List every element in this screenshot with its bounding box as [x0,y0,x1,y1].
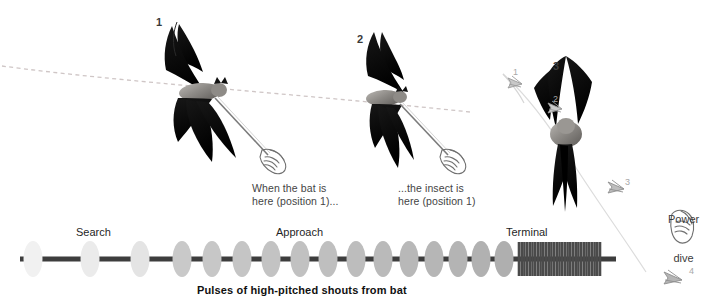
bat-1 [165,22,236,162]
power-dive-line1: Power [668,213,699,226]
power-dive-label: Power dive [668,187,699,291]
pulse-ellipses [24,241,514,277]
power-dive-line2: dive [668,252,699,265]
bat-label-1: 1 [156,16,162,28]
phase-label-search: Search [76,226,111,238]
insect-position-note: ...the insect is here (position 1) [398,182,476,207]
insect-marker-2: 2 [553,94,558,104]
figure-caption: Pulses of high-pitched shouts from bat [197,284,407,296]
pulse-train-chart [20,241,616,277]
insect-marker-3: 3 [625,177,630,187]
bat-3 [534,56,592,212]
moth-icon-3 [608,180,624,193]
bat-2 [366,32,414,168]
hand-pointer-icon-2 [440,149,466,173]
phase-label-approach: Approach [276,226,323,238]
bat-label-3: 3 [553,60,559,72]
bat-position-note-line2: here (position 1)... [252,195,339,208]
bat-position-note-line1: When the bat is [252,182,339,195]
bat-position-note: When the bat is here (position 1)... [252,182,339,207]
moth-icon-1 [508,76,522,88]
figure-artwork [0,0,711,305]
bat-label-2: 2 [357,33,363,45]
hand-pointer-icon-1 [260,149,286,173]
insect-position-note-line1: ...the insect is [398,182,476,195]
phase-label-terminal: Terminal [506,226,548,238]
bat-echolocation-figure: 1 2 3 1 2 3 4 When the bat is here (posi… [0,0,711,305]
insect-marker-1: 1 [513,67,518,77]
insect-position-note-line2: here (position 1) [398,195,476,208]
